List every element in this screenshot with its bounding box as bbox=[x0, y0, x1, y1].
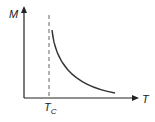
magnetization-curve bbox=[52, 30, 115, 93]
y-axis-arrow-icon bbox=[21, 6, 27, 13]
critical-temperature-label: TC bbox=[44, 101, 57, 116]
x-axis-arrow-icon bbox=[132, 95, 139, 101]
critical-label-sub: C bbox=[51, 107, 57, 116]
magnetization-diagram: M T TC bbox=[0, 0, 155, 122]
x-axis-label: T bbox=[142, 93, 150, 105]
y-axis-label: M bbox=[9, 8, 19, 20]
